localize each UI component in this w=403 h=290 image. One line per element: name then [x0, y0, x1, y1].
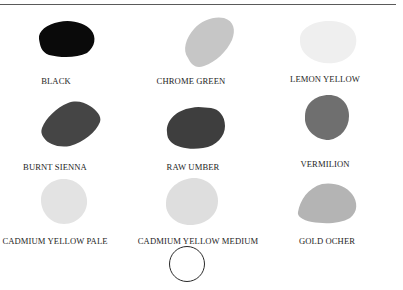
swatch-vermilion: [301, 92, 353, 144]
swatch-lemon-yellow: [296, 17, 360, 65]
top-rule: [0, 4, 396, 5]
swatch-cadmium-yellow-medium: [162, 175, 222, 229]
label-chrome-green: CHROME GREEN: [157, 76, 226, 86]
swatch-black: [33, 17, 99, 59]
label-cadmium-yellow-pale: CADMIUM YELLOW PALE: [2, 236, 107, 246]
label-lemon-yellow: LEMON YELLOW: [290, 74, 360, 84]
label-raw-umber: RAW UMBER: [167, 162, 220, 172]
label-cadmium-yellow-medium: CADMIUM YELLOW MEDIUM: [138, 236, 259, 246]
swatch-burnt-sienna: [38, 98, 104, 150]
circle-marker: [169, 246, 205, 282]
swatch-cadmium-yellow-pale: [38, 176, 90, 228]
label-vermilion: VERMILION: [300, 159, 349, 169]
label-black: BLACK: [41, 76, 71, 86]
swatch-chrome-green: [180, 14, 240, 70]
swatch-gold-ocher: [294, 180, 360, 226]
label-burnt-sienna: BURNT SIENNA: [23, 162, 87, 172]
swatch-raw-umber: [163, 102, 229, 152]
label-gold-ocher: GOLD OCHER: [299, 236, 355, 246]
